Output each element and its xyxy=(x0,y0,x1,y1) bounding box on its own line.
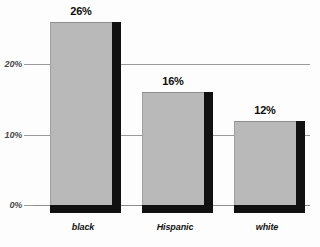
category-label-hispanic: Hispanic xyxy=(157,222,194,232)
category-label-white: white xyxy=(256,222,279,232)
bar-bottom-face xyxy=(234,205,305,213)
bar-side-face xyxy=(204,92,213,213)
y-tick-mark-20 xyxy=(24,64,33,65)
bar-bottom-face xyxy=(50,205,121,213)
bar-chart: 0%10%20%26%black16%Hispanic12%white xyxy=(0,0,320,247)
plot-area: 0%10%20%26%black16%Hispanic12%white xyxy=(33,8,310,213)
y-tick-mark-10 xyxy=(24,135,33,136)
y-tick-mark-0 xyxy=(24,205,33,206)
y-axis-label-20: 20% xyxy=(5,59,22,69)
value-label-black: 26% xyxy=(70,5,91,17)
bar-bottom-face xyxy=(142,205,213,213)
value-label-white: 12% xyxy=(254,104,275,116)
bar-hispanic[interactable] xyxy=(142,92,213,213)
bar-side-face xyxy=(296,121,305,213)
bar-white[interactable] xyxy=(234,121,305,213)
bar-black[interactable] xyxy=(50,22,121,213)
bar-side-face xyxy=(112,22,121,213)
bar-face xyxy=(234,121,296,205)
y-axis-label-0: 0% xyxy=(9,200,22,210)
bar-face xyxy=(142,92,204,205)
y-axis-label-10: 10% xyxy=(5,130,22,140)
value-label-hispanic: 16% xyxy=(162,75,183,87)
bar-face xyxy=(50,22,112,205)
category-label-black: black xyxy=(72,222,95,232)
